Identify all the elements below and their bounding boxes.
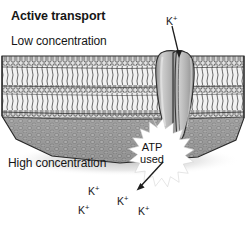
atp-label-line1: ATP xyxy=(128,141,176,153)
active-transport-diagram: Active transport Low concentration High … xyxy=(0,0,246,225)
low-concentration-label: Low concentration xyxy=(11,35,107,47)
ion-symbol: K xyxy=(166,15,173,27)
ion-symbol: K xyxy=(88,185,95,197)
potassium-ion-outside: K+ xyxy=(166,16,177,27)
ion-charge: + xyxy=(95,184,99,193)
potassium-ion-inside: K+ xyxy=(117,196,128,207)
atp-label-line2: used xyxy=(128,153,176,165)
ion-charge: + xyxy=(173,14,177,23)
potassium-ion-inside: K+ xyxy=(138,206,149,217)
ion-symbol: K xyxy=(138,205,145,217)
potassium-ion-inside: K+ xyxy=(78,205,89,216)
ion-symbol: K xyxy=(117,195,124,207)
potassium-ion-inside: K+ xyxy=(88,186,99,197)
ion-charge: + xyxy=(145,204,149,213)
ion-symbol: K xyxy=(78,204,85,216)
ion-charge: + xyxy=(124,194,128,203)
high-concentration-label: High concentration xyxy=(8,157,106,169)
page-title: Active transport xyxy=(11,10,105,23)
ion-charge: + xyxy=(85,203,89,212)
